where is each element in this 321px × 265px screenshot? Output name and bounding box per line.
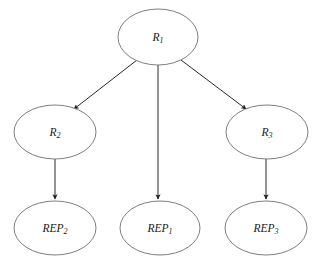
- node-rep2[interactable]: REP2: [14, 201, 96, 255]
- tree-diagram: R1 R2 R3 REP2: [0, 0, 321, 265]
- node-group: R1 R2 R3 REP2: [14, 9, 308, 255]
- node-rep1[interactable]: REP1: [120, 201, 200, 255]
- diagram-canvas: R1 R2 R3 REP2: [0, 0, 321, 265]
- node-rep3[interactable]: REP3: [225, 201, 307, 255]
- edge-r1-to-r3: [181, 60, 246, 109]
- node-r2[interactable]: R2: [14, 105, 96, 159]
- node-r3[interactable]: R3: [226, 105, 308, 159]
- edge-r1-to-r2: [74, 60, 137, 109]
- node-r1[interactable]: R1: [118, 9, 198, 65]
